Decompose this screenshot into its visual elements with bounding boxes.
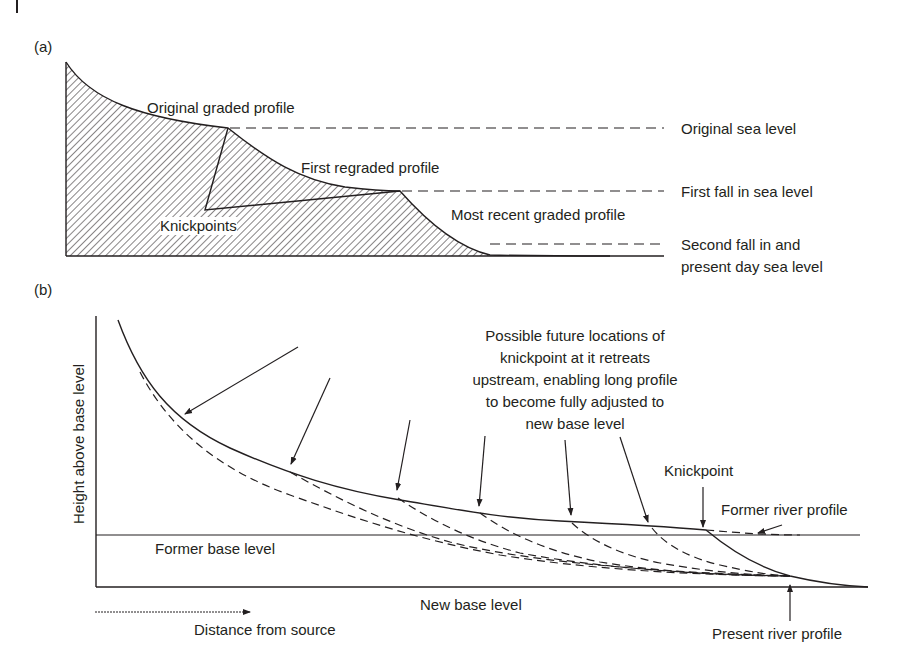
first-fall-sea-level-label: First fall in sea level [681, 183, 813, 201]
knickpoint-label: Knickpoint [664, 462, 733, 480]
knickpoints-label: Knickpoints [160, 217, 237, 235]
former-river-profile-label: Former river profile [721, 501, 848, 519]
second-fall-sea-level-label-2: present day sea level [681, 258, 823, 276]
panel-a-label: (a) [34, 38, 52, 56]
annotation-block: Possible future locations of knickpoint … [410, 327, 740, 417]
original-graded-profile-label: Original graded profile [147, 99, 295, 117]
x-axis-label: Distance from source [194, 621, 336, 639]
most-recent-graded-profile-label: Most recent graded profile [451, 206, 625, 224]
annotation-line-3: upstream, enabling long profile [410, 371, 740, 389]
first-regraded-profile-label: First regraded profile [301, 159, 439, 177]
y-axis-label: Height above base level [70, 364, 87, 524]
panel-b-label: (b) [34, 281, 52, 299]
annotation-line-4: to become fully adjusted to [410, 393, 740, 411]
annotation-line-5: new base level [410, 415, 740, 433]
second-fall-sea-level-label-1: Second fall in and [681, 236, 800, 254]
annotation-line-2: knickpoint at it retreats [410, 349, 740, 367]
former-base-level-label: Former base level [155, 540, 275, 558]
new-base-level-label: New base level [420, 596, 522, 614]
original-sea-level-label: Original sea level [681, 120, 796, 138]
annotation-line-1: Possible future locations of [410, 327, 740, 345]
present-river-profile-label: Present river profile [712, 625, 842, 643]
